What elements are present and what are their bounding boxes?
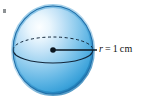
sphere-figure: r=1cm — [0, 0, 146, 98]
radius-unit: cm — [120, 43, 132, 54]
corner-artifact-mark — [3, 9, 6, 13]
radius-label: r=1cm — [99, 43, 132, 55]
radius-equals: = — [105, 43, 111, 54]
radius-variable: r — [99, 43, 103, 54]
center-dot — [50, 47, 56, 53]
radius-value: 1 — [113, 43, 118, 54]
